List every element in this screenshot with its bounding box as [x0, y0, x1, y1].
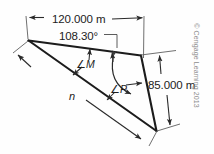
angle-label-apex: 108.30°: [59, 31, 98, 43]
geometry-figure: 120.000 m 108.30° 85.000 m ∠M ∠P n © Cen…: [0, 0, 214, 154]
angle-name-p: P: [120, 83, 127, 95]
copyright-credit: © Cengage Learning 2013: [193, 23, 200, 109]
angle-label-m: ∠M: [76, 59, 95, 70]
triangle-side-right: [141, 56, 157, 132]
dimension-n: [13, 41, 157, 146]
dimension-label-top: 120.000 m: [52, 14, 105, 26]
angle-symbol-p: ∠: [110, 83, 120, 95]
side-label-n: n: [69, 91, 75, 102]
dimension-label-right: 85.000 m: [148, 80, 195, 92]
angle-label-p: ∠P: [110, 84, 127, 95]
triangle-outline: [29, 41, 157, 132]
angle-name-m: M: [86, 58, 95, 70]
angle-symbol-m: ∠: [76, 58, 86, 70]
figure-vector-graphics: [0, 0, 214, 154]
